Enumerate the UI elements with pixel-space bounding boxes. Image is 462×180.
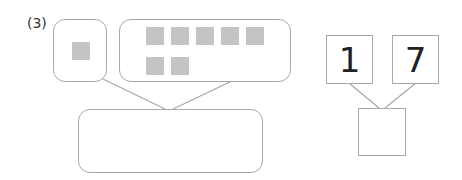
small-set-box (53, 19, 107, 82)
unit-square (221, 27, 239, 45)
tens-digit-box: 1 (326, 35, 373, 84)
unit-square (171, 57, 189, 75)
unit-square (196, 27, 214, 45)
unit-square (246, 27, 264, 45)
unit-square (171, 27, 189, 45)
unit-square (72, 42, 90, 60)
answer-box-right[interactable] (358, 108, 406, 156)
ones-digit-box: 7 (392, 35, 439, 84)
unit-square (146, 57, 164, 75)
large-set-box (119, 19, 291, 82)
answer-box-left[interactable] (78, 109, 263, 173)
problem-number: (3) (27, 15, 47, 31)
unit-square (146, 27, 164, 45)
